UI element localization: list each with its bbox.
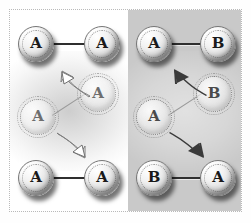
atom-label: A [212, 170, 224, 185]
atom-left-bottom-first: A [18, 160, 54, 196]
atom-right-top-first: A [136, 26, 172, 62]
atom-label: A [148, 109, 160, 124]
dimer-left-top: A A [16, 24, 122, 64]
atom-label: B [212, 36, 225, 51]
dimer-right-top: A B [134, 24, 238, 64]
atom-left-top-second: A [84, 26, 120, 62]
atom-left-top-first: A [18, 26, 54, 62]
dimer-rotation-figure: A A A A [0, 0, 251, 223]
atom-label: B [148, 170, 161, 185]
atom-right-bottom-second: A [200, 160, 236, 196]
homonuclear-panel: A A A A [10, 10, 128, 211]
heteronuclear-panel: A B A B [128, 10, 241, 211]
dimer-left-bottom: A A [16, 158, 122, 198]
atom-label: A [30, 170, 42, 185]
atom-label: B [208, 86, 221, 101]
dimer-right-bottom: B A [134, 158, 238, 198]
atom-left-bottom-second: A [84, 160, 120, 196]
atom-label: A [148, 36, 160, 51]
atom-label: A [96, 36, 108, 51]
atom-right-middle-first: A [136, 99, 172, 135]
atom-label: A [30, 36, 42, 51]
atom-right-top-second: B [200, 26, 236, 62]
atom-label: A [92, 86, 104, 101]
atom-right-bottom-first: B [136, 160, 172, 196]
atom-label: A [32, 109, 44, 124]
atom-left-middle-first: A [20, 99, 56, 135]
atom-label: A [96, 170, 108, 185]
